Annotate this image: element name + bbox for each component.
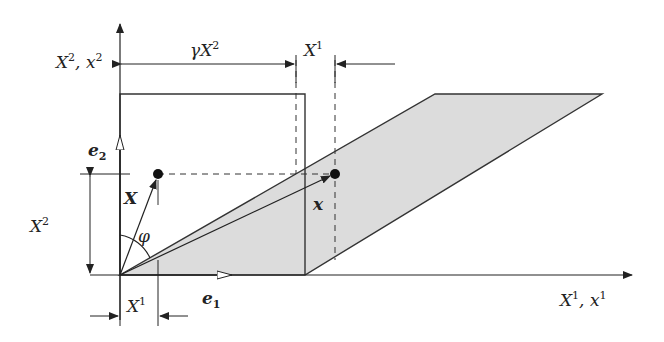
current-point xyxy=(330,169,340,179)
y-axis-label: X2, x2 xyxy=(56,52,103,71)
top-x1-label: X1 xyxy=(304,40,323,59)
deformed-body xyxy=(120,94,602,275)
e1-label: e1 xyxy=(202,290,220,310)
shear-diagram: X2, x2 γX2 X1 e2 X φ x X2 X1 e1 X1, x1 xyxy=(0,0,664,342)
x-vector-label: x xyxy=(313,196,323,213)
angle-label: φ xyxy=(138,228,150,245)
x-axis-label: X1, x1 xyxy=(560,290,607,309)
e2-label: e2 xyxy=(88,142,106,162)
left-x2-label: X2 xyxy=(30,216,49,235)
X-vector-label: X xyxy=(124,190,137,207)
bottom-x1-label: X1 xyxy=(127,296,146,315)
reference-point xyxy=(153,169,163,179)
shear-offset-label: γX2 xyxy=(190,40,219,59)
